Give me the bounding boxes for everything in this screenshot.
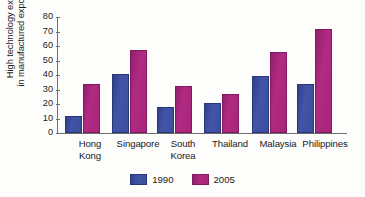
bar-2005[interactable] — [175, 86, 192, 133]
y-tick-label-30: 30 — [37, 84, 53, 95]
bar-1990[interactable] — [252, 76, 269, 133]
y-tick-50: 50 — [56, 61, 60, 62]
y-tick-60: 60 — [56, 46, 60, 47]
legend: 19902005 — [0, 174, 365, 185]
y-tick-0: 0 — [56, 133, 60, 134]
category-label-south-korea: South Korea — [158, 138, 208, 161]
y-tick-80: 80 — [56, 17, 60, 18]
y-tick-40: 40 — [56, 75, 60, 76]
y-tick-label-10: 10 — [37, 113, 53, 124]
y-axis-title-line-1: High technology exports — [4, 0, 15, 78]
bar-1990[interactable] — [112, 74, 129, 133]
bar-1990[interactable] — [65, 116, 82, 133]
bar-chart: High technology exports in manufactured … — [0, 0, 365, 197]
bar-group — [157, 17, 193, 133]
y-tick-label-60: 60 — [37, 40, 53, 51]
y-tick-label-50: 50 — [37, 55, 53, 66]
legend-entry-1990[interactable]: 1990 — [130, 174, 173, 185]
legend-label-1990: 1990 — [152, 174, 173, 185]
bar-group — [112, 17, 148, 133]
y-tick-30: 30 — [56, 90, 60, 91]
bar-2005[interactable] — [222, 94, 239, 133]
bar-2005[interactable] — [83, 84, 100, 133]
y-tick-label-20: 20 — [37, 98, 53, 109]
y-tick-label-0: 0 — [37, 127, 53, 138]
bar-1990[interactable] — [157, 107, 174, 133]
bar-1990[interactable] — [297, 84, 314, 133]
y-axis-title: High technology exports in manufactured … — [0, 0, 32, 90]
bar-2005[interactable] — [315, 29, 332, 133]
legend-label-2005: 2005 — [214, 174, 235, 185]
legend-entry-2005[interactable]: 2005 — [192, 174, 235, 185]
y-axis-title-line-2: in manufactured exports (%) — [15, 0, 26, 87]
bar-2005[interactable] — [270, 52, 287, 133]
y-tick-label-40: 40 — [37, 69, 53, 80]
y-tick-20: 20 — [56, 104, 60, 105]
bar-group — [204, 17, 240, 133]
bar-1990[interactable] — [204, 103, 221, 133]
y-tick-10: 10 — [56, 119, 60, 120]
y-tick-label-70: 70 — [37, 26, 53, 37]
bar-2005[interactable] — [130, 50, 147, 133]
legend-swatch-2005 — [192, 174, 209, 185]
plot-area: 01020304050607080 — [57, 17, 347, 133]
y-tick-label-80: 80 — [37, 11, 53, 22]
legend-swatch-1990 — [130, 174, 147, 185]
y-tick-70: 70 — [56, 32, 60, 33]
bar-group — [252, 17, 288, 133]
category-label-philippines: Philippines — [294, 138, 356, 150]
bar-group — [65, 17, 101, 133]
bar-group — [297, 17, 333, 133]
